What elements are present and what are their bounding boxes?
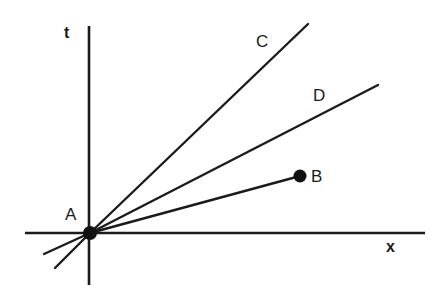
worldline-d-label: D [313,87,325,104]
event-a-dot [83,226,97,240]
event-a-label: A [65,206,77,223]
worldline-d-extension [55,233,90,268]
worldline-c-extension [44,233,90,254]
event-b-label: B [311,168,323,185]
t-axis-label: t [64,25,70,41]
worldline-d-line [90,85,378,233]
diagram-canvas [0,0,443,291]
worldline-ab-line [90,176,300,233]
worldline-c-label: C [256,33,268,50]
event-b-dot [294,170,307,183]
spacetime-diagram-figure: t x A B C D [0,0,443,291]
x-axis-label: x [386,239,395,255]
worldline-c-line [90,24,308,233]
